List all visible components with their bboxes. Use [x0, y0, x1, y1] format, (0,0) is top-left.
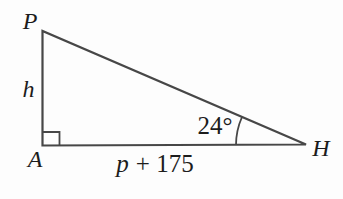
side-label-height: h	[23, 76, 35, 102]
angle-value-label: 24°	[198, 112, 233, 139]
right-triangle-figure: P A H h p+ 175 24°	[0, 0, 343, 199]
triangle-outline	[43, 31, 307, 146]
vertex-label-p: P	[22, 8, 38, 34]
angle-arc	[236, 117, 242, 145]
side-label-base-constant: + 175	[136, 150, 194, 177]
right-angle-marker	[43, 132, 60, 146]
vertex-label-h: H	[311, 135, 331, 161]
side-label-base: p+ 175	[114, 150, 193, 177]
diagram-canvas: P A H h p+ 175 24°	[0, 0, 343, 199]
vertex-label-a: A	[26, 146, 43, 172]
side-label-base-variable: p	[114, 150, 129, 177]
